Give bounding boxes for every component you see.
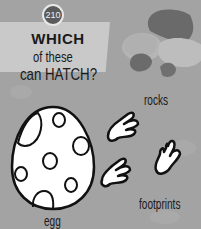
egg-icon[interactable] (8, 103, 98, 213)
page-number: 210 (45, 10, 60, 20)
egg-label: egg (44, 213, 61, 229)
page-title: WHICH of these can HATCH? (6, 30, 110, 84)
title-emphasis: WHICH (31, 30, 84, 47)
background-blob (150, 210, 180, 224)
title-line2: can HATCH? (19, 66, 96, 84)
rocks-icon[interactable] (112, 5, 201, 80)
footprints-icon[interactable] (100, 108, 185, 188)
page-number-badge: 210 (42, 4, 64, 26)
background-blob (10, 85, 32, 99)
footprints-label: footprints (139, 196, 180, 212)
title-line1-rest: of these (33, 48, 73, 66)
rocks-label: rocks (144, 92, 168, 108)
